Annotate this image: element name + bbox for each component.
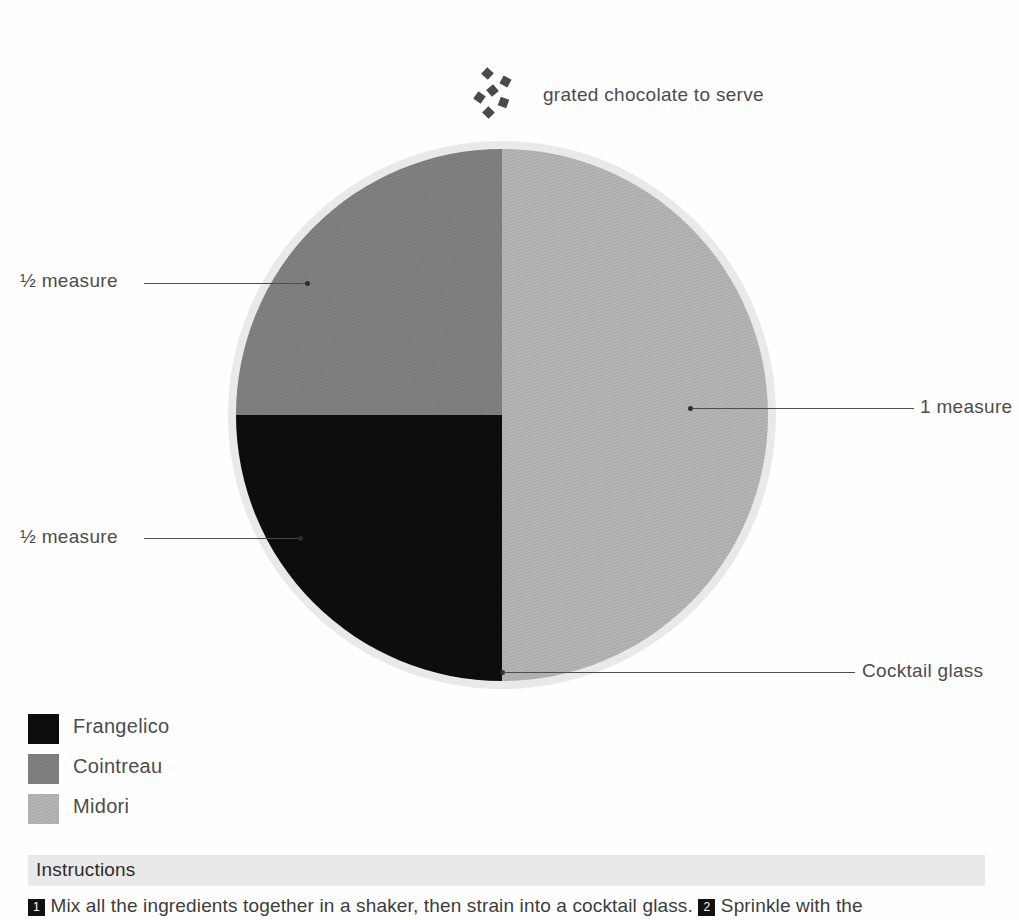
grated-chocolate-icon [474, 64, 526, 116]
instructions-title: Instructions [36, 859, 136, 881]
callout-cointreau-label: ½ measure [20, 270, 118, 292]
legend-label-cointreau: Cointreau [73, 755, 162, 778]
pie-slice-frangelico[interactable] [236, 415, 502, 681]
swatch-texture [28, 794, 59, 824]
legend-swatch-cointreau [28, 754, 59, 784]
callout-cointreau-leader [144, 283, 308, 284]
legend-label-frangelico: Frangelico [73, 715, 169, 738]
instructions-body: 1 Mix all the ingredients together in a … [28, 893, 988, 919]
callout-frangelico-dot [298, 536, 303, 541]
callout-cointreau-dot [305, 281, 310, 286]
legend-item-frangelico[interactable]: Frangelico [28, 712, 328, 752]
swatch-texture [28, 754, 59, 784]
pie-body [236, 149, 768, 681]
pie-slice-cointreau[interactable] [236, 149, 502, 415]
garnish-label: grated chocolate to serve [543, 84, 764, 106]
garnish-note: grated chocolate to serve [474, 64, 894, 124]
instructions-header-bar: Instructions [28, 855, 985, 886]
recipe-page: grated chocolate to serve ½ measure ½ me… [0, 0, 1019, 920]
callout-midori-label: 1 measure [920, 396, 1012, 418]
callout-glass-label: Cocktail glass [862, 660, 983, 682]
step-number-1: 1 [28, 899, 45, 916]
legend-item-midori[interactable]: Midori [28, 792, 328, 832]
slice-texture [236, 149, 502, 415]
swatch-texture [28, 714, 59, 744]
slice-texture [236, 415, 502, 681]
pie-slice-midori[interactable] [502, 149, 768, 681]
callout-midori-leader [692, 408, 914, 409]
legend-swatch-frangelico [28, 714, 59, 744]
step-text-1: Mix all the ingredients together in a sh… [50, 895, 693, 916]
cocktail-glass-pie-chart [228, 141, 776, 689]
legend-label-midori: Midori [73, 795, 129, 818]
legend-item-cointreau[interactable]: Cointreau [28, 752, 328, 792]
callout-frangelico-leader [144, 538, 302, 539]
legend: Frangelico Cointreau Midori [28, 712, 328, 832]
slice-texture [502, 149, 768, 681]
legend-swatch-midori [28, 794, 59, 824]
callout-frangelico-label: ½ measure [20, 526, 118, 548]
step-number-2: 2 [698, 899, 715, 916]
callout-glass-leader [503, 672, 855, 673]
step-text-2: Sprinkle with the [721, 895, 863, 916]
